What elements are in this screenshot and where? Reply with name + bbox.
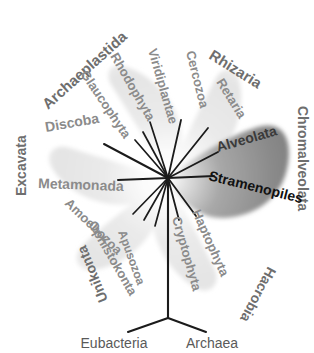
supergroup-label-excavata: Excavata	[13, 135, 29, 196]
root-label-eubacteria: Eubacteria	[81, 335, 148, 351]
root-label-archaea: Archaea	[186, 335, 238, 351]
clade-label-metamonada: Metamonada	[38, 175, 124, 194]
clade-label-discoba: Discoba	[44, 110, 101, 135]
branch-archaea	[168, 318, 206, 332]
phylogenetic-tree-figure: Archaeplastida Rhizaria Chromalveolata H…	[0, 0, 314, 353]
supergroup-label-hacrobia: Hacrobia	[237, 265, 279, 326]
tree-canvas: Archaeplastida Rhizaria Chromalveolata H…	[0, 0, 314, 353]
root-labels: Eubacteria Archaea	[81, 335, 239, 351]
branch-eubacteria	[128, 318, 168, 332]
